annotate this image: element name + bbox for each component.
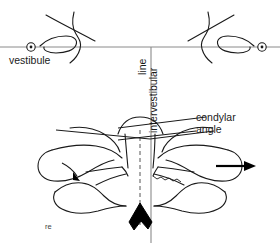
dens-right-edge: [153, 134, 155, 168]
small-arrow-shaft: [62, 163, 77, 176]
solid-chevron-icon: [129, 203, 152, 230]
label-intervestibular: intervestibular: [147, 68, 159, 133]
right-inner-loop: [217, 36, 254, 53]
circled-dot-center: [261, 46, 264, 49]
left-superior-facet-upper: [70, 127, 120, 152]
right-inferior-margin: [154, 192, 226, 213]
left-outer-loop: [70, 12, 81, 63]
left-inferior-margin: [54, 192, 126, 213]
label-corner-note: re: [45, 223, 52, 232]
right-vestibule-shape: [201, 12, 254, 63]
arrow-right-icon: [244, 161, 256, 171]
right-outer-loop: [201, 12, 212, 63]
label-condylar-word: condylar: [196, 111, 236, 123]
left-vestibule-marker: [27, 43, 35, 51]
top-left-curve: [46, 15, 95, 41]
left-inferior-lamina: [55, 183, 126, 206]
anatomical-diagram: vestibule intervestibular line condylar …: [0, 0, 280, 250]
spinous-process-marker: [129, 203, 152, 230]
upper-curved-strokes: [46, 15, 234, 41]
diagram-canvas: [0, 0, 280, 250]
left-inner-loop: [40, 36, 77, 53]
condylar-axis-left: [56, 130, 150, 139]
label-vestibule: vestibule: [9, 54, 50, 66]
label-angle-word: angle: [196, 123, 236, 135]
right-pedicle-line: [154, 174, 184, 185]
right-vestibule-marker: [258, 43, 266, 51]
circled-dot-center: [30, 46, 33, 49]
right-body-upper-edge: [158, 145, 228, 158]
top-right-curve: [188, 15, 234, 41]
left-body-upper-edge: [52, 145, 122, 158]
label-condylar-angle: condylar angle: [196, 111, 236, 135]
direction-arrow-right: [216, 161, 256, 171]
right-inferior-lamina: [154, 183, 225, 206]
label-line: line: [136, 59, 148, 75]
small-pointer-arrow: [62, 163, 80, 181]
left-pedicle-line: [96, 174, 126, 185]
